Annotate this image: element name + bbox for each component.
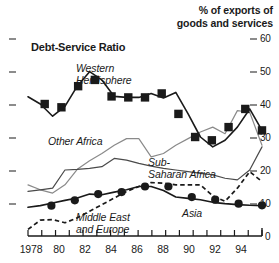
series-label-middle-east-and-europe: Middle East and Europe (76, 212, 130, 235)
data-point-marker-circle (94, 190, 102, 198)
data-point-marker-square (258, 126, 266, 134)
x-tick-label-88: 88 (157, 243, 168, 255)
data-point-marker-square (224, 123, 232, 131)
asia-markers (47, 182, 266, 209)
data-point-marker-square (208, 136, 216, 144)
x-tick-label-80: 80 (53, 243, 64, 255)
data-point-marker-square (41, 100, 49, 108)
chart-plot-area (0, 0, 279, 263)
x-axis (28, 228, 262, 236)
data-point-marker-square (141, 93, 149, 101)
x-tick-label-94: 94 (235, 243, 246, 255)
data-point-marker-square (241, 105, 249, 113)
data-point-marker-square (124, 93, 132, 101)
data-point-marker-square (158, 89, 166, 97)
series-label-asia: Asia (182, 208, 202, 220)
series-asia (28, 182, 266, 209)
data-point-marker-square (57, 103, 65, 111)
x-tick-label-92: 92 (209, 243, 220, 255)
data-point-marker-circle (71, 196, 79, 204)
data-point-marker-circle (188, 193, 196, 201)
x-tick-label-82: 82 (79, 243, 90, 255)
data-point-marker-square (107, 92, 115, 100)
data-point-marker-square (174, 110, 182, 118)
data-point-marker-circle (211, 196, 219, 204)
debt-service-ratio-chart: % of exports of goods and services Debt-… (0, 0, 279, 263)
data-point-marker-circle (141, 182, 149, 190)
x-tick-label-1978: 1978 (20, 243, 43, 255)
x-tick-label-86: 86 (131, 243, 142, 255)
data-point-marker-circle (47, 202, 55, 210)
data-point-marker-circle (235, 200, 243, 208)
x-tick-label-90: 90 (183, 243, 194, 255)
data-point-marker-circle (118, 188, 126, 196)
series-label-sub-saharan-africa: Sub- Saharan Africa (148, 157, 216, 180)
series-label-western-hemisphere: Western Hemisphere (76, 63, 132, 86)
x-tick-label-84: 84 (105, 243, 116, 255)
data-point-marker-circle (164, 182, 172, 190)
data-point-marker-circle (258, 201, 266, 209)
data-point-marker-square (191, 133, 199, 141)
series-label-other-africa: Other Africa (48, 136, 102, 148)
